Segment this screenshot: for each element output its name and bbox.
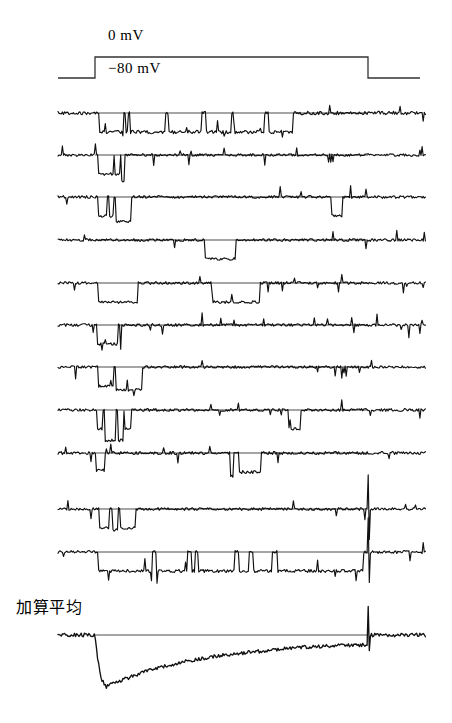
sweep-trace (58, 313, 425, 350)
sweep-trace (58, 186, 425, 223)
voltage-step-label: 0 mV (108, 27, 144, 44)
sweep-trace (58, 400, 425, 442)
sweep-trace (58, 230, 425, 260)
ensemble-average-trace (58, 606, 425, 688)
sweep-trace (58, 274, 425, 303)
holding-voltage-label: −80 mV (108, 60, 161, 77)
sweep-trace (58, 360, 425, 395)
sweep-trace (58, 105, 425, 137)
sweep-trace (58, 144, 425, 182)
single-channel-sweeps (58, 105, 425, 583)
ensemble-average-label: 加算平均 (16, 594, 82, 618)
sweep-trace (58, 475, 425, 540)
sweep-trace (58, 444, 425, 477)
patch-clamp-figure: 0 mV −80 mV 加算平均 (0, 0, 452, 723)
